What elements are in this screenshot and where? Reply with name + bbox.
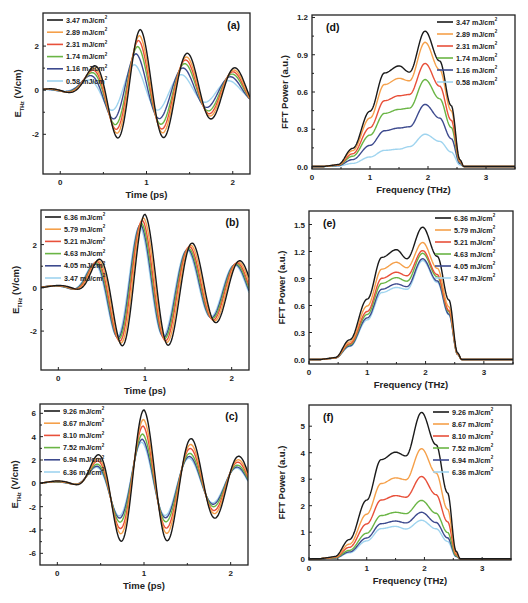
- legend-label: 2.89 mJ/cm2: [456, 29, 498, 39]
- series-line-1: [309, 227, 513, 359]
- legend-item: 2.31 mJ/cm2: [47, 40, 108, 50]
- y-tick-label: 1.5: [294, 221, 306, 230]
- figure: 012-202Time (ps)ETHz (V/cm)(a)3.47 mJ/cm…: [0, 0, 528, 603]
- y-tick-label: 2: [35, 42, 40, 51]
- legend-label: 3.47 mJ/cm2: [454, 273, 496, 283]
- legend-item: 8.10 mJ/cm2: [433, 431, 494, 441]
- y-tick-label: -2: [32, 130, 40, 139]
- series-line-4: [309, 500, 511, 558]
- legend-item: 5.79 mJ/cm2: [435, 225, 496, 235]
- y-tick-label: 1.2: [297, 13, 309, 22]
- legend-label: 2.31 mJ/cm2: [456, 41, 498, 51]
- legend-label: 7.52 mJ/cm2: [63, 443, 105, 453]
- legend-label: 6.36 mJ/cm2: [63, 467, 105, 477]
- x-tick-label: 0: [56, 374, 61, 383]
- legend-item: 6.94 mJ/cm2: [44, 455, 105, 465]
- panel-label: (e): [323, 217, 336, 229]
- x-tick-label: 1: [144, 178, 149, 187]
- legend: 9.26 mJ/cm28.67 mJ/cm28.10 mJ/cm27.52 mJ…: [433, 407, 494, 477]
- legend-label: 2.89 mJ/cm2: [66, 27, 108, 37]
- y-tick-label: 0.3: [297, 125, 309, 134]
- x-axis-title: Frequency (THz): [376, 184, 450, 195]
- legend: 6.36 mJ/cm25.79 mJ/cm25.21 mJ/cm24.63 mJ…: [45, 212, 106, 283]
- legend-label: 6.36 mJ/cm2: [454, 213, 496, 223]
- x-tick-label: 0: [58, 178, 63, 187]
- y-tick-label: 0.6: [294, 302, 306, 311]
- panel-b: 012-202Time (ps)ETHz (V/cm)(b)6.36 mJ/cm…: [10, 210, 249, 396]
- x-tick-label: 2: [426, 173, 431, 182]
- y-axis-title: ETHz (V/cm): [9, 460, 22, 508]
- series-line-2: [309, 243, 513, 360]
- legend-item: 5.21 mJ/cm2: [435, 237, 496, 247]
- y-tick-label: 5: [301, 422, 306, 431]
- legend: 6.36 mJ/cm25.79 mJ/cm25.21 mJ/cm24.63 mJ…: [435, 213, 496, 283]
- y-axis-title: ETHz (V/cm): [10, 266, 23, 314]
- legend-label: 8.67 mJ/cm2: [452, 419, 494, 429]
- y-tick-label: 0: [301, 555, 306, 564]
- x-axis-title: Time (ps): [124, 385, 166, 396]
- legend-item: 3.47 mJ/cm2: [437, 17, 498, 27]
- panel-label: (d): [326, 21, 339, 33]
- panel-label: (c): [225, 410, 238, 422]
- legend-item: 2.89 mJ/cm2: [47, 27, 108, 37]
- y-tick-label: 0.9: [297, 51, 309, 60]
- legend-item: 5.79 mJ/cm2: [45, 224, 106, 234]
- x-tick-label: 2: [231, 178, 236, 187]
- x-axis-title: Time (ps): [123, 580, 165, 591]
- legend-item: 1.16 mJ/cm2: [437, 65, 498, 75]
- panel-c: 012-6-4-20246Time (ps)ETHz (V/cm)(c)9.26…: [9, 404, 248, 591]
- panel-label: (a): [227, 19, 240, 31]
- x-tick-label: 1: [142, 569, 147, 578]
- legend-item: 8.67 mJ/cm2: [433, 419, 494, 429]
- legend-item: 0.58 mJ/cm2: [47, 76, 108, 86]
- y-axis-title: ETHz (V/cm): [12, 69, 25, 117]
- panel-f: 0123012345Frequency (THz)FFT Power (a.u.…: [276, 405, 511, 586]
- legend-label: 4.05 mJ/cm2: [454, 261, 496, 271]
- y-tick-label: 0: [33, 284, 38, 293]
- legend-item: 3.47 mJ/cm2: [45, 273, 106, 283]
- legend-item: 4.05 mJ/cm2: [435, 261, 496, 271]
- y-tick-label: 0.0: [294, 356, 306, 365]
- legend-label: 8.10 mJ/cm2: [452, 431, 494, 441]
- y-tick-label: 2: [33, 241, 38, 250]
- y-axis-title: FFT Power (a.u.): [276, 251, 287, 325]
- legend-label: 3.47 mJ/cm2: [456, 17, 498, 27]
- x-axis-title: Frequency (THz): [374, 379, 448, 390]
- legend-label: 9.26 mJ/cm2: [452, 407, 494, 417]
- legend-label: 6.36 mJ/cm2: [64, 212, 106, 222]
- y-tick-label: 0.0: [297, 163, 309, 172]
- legend-label: 5.21 mJ/cm2: [64, 237, 106, 247]
- panel-label: (b): [226, 216, 239, 228]
- x-tick-label: 3: [480, 564, 485, 573]
- y-tick-label: 0.6: [297, 88, 309, 97]
- legend-item: 1.16 mJ/cm2: [47, 64, 108, 74]
- legend-label: 8.67 mJ/cm2: [63, 418, 105, 428]
- x-tick-label: 2: [423, 368, 428, 377]
- legend-label: 4.05 mJ/cm2: [64, 261, 106, 271]
- y-tick-label: 0.9: [294, 275, 306, 284]
- legend-label: 3.47 mJ/cm2: [66, 15, 108, 25]
- legend-label: 1.74 mJ/cm2: [66, 52, 108, 62]
- y-tick-label: -6: [29, 549, 37, 558]
- y-tick-label: -2: [29, 503, 37, 512]
- y-tick-label: 3: [301, 475, 306, 484]
- y-tick-label: 6: [32, 409, 37, 418]
- legend-label: 3.47 mJ/cm2: [64, 273, 106, 283]
- panel-e: 01230.00.30.60.91.21.5Frequency (THz)FFT…: [276, 211, 513, 390]
- legend-label: 1.74 mJ/cm2: [456, 53, 498, 63]
- y-tick-label: 0: [35, 86, 40, 95]
- y-tick-label: 2: [32, 456, 37, 465]
- legend-item: 4.63 mJ/cm2: [45, 249, 106, 259]
- legend-item: 7.52 mJ/cm2: [433, 443, 494, 453]
- legend-item: 7.52 mJ/cm2: [44, 443, 105, 453]
- legend-item: 4.63 mJ/cm2: [435, 249, 496, 259]
- series-line-3: [309, 477, 511, 559]
- y-tick-label: -2: [30, 327, 38, 336]
- y-tick-label: 2: [301, 502, 306, 511]
- y-axis-title: FFT Power (a.u.): [276, 446, 287, 520]
- legend-item: 9.26 mJ/cm2: [44, 406, 105, 416]
- x-tick-label: 2: [228, 569, 233, 578]
- legend-label: 4.63 mJ/cm2: [64, 249, 106, 259]
- legend-item: 8.67 mJ/cm2: [44, 418, 105, 428]
- x-tick-label: 1: [143, 374, 148, 383]
